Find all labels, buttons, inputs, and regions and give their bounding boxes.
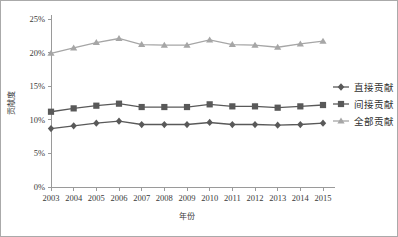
data-point-marker [229, 121, 235, 128]
x-tick-label: 2009 [179, 193, 196, 203]
y-axis-title: 贡献度 [6, 91, 16, 115]
series-1 [48, 118, 326, 133]
x-tick-label: 2014 [292, 193, 310, 203]
data-point-marker [229, 103, 235, 109]
data-point-marker [320, 102, 326, 108]
data-point-marker [274, 122, 280, 129]
data-point-marker [297, 103, 303, 109]
data-point-marker [116, 101, 122, 107]
data-point-marker [207, 101, 213, 107]
legend-item-2[interactable]: 间接贡献 [333, 99, 394, 110]
data-point-marker [252, 103, 258, 109]
x-tick-label: 2015 [315, 193, 332, 203]
legend-square-marker-icon [338, 101, 344, 107]
x-tick-label: 2012 [247, 193, 264, 203]
legend-item-1[interactable]: 直接贡献 [333, 82, 394, 93]
data-point-marker [252, 121, 258, 128]
data-point-marker [184, 121, 190, 128]
data-point-marker [48, 109, 54, 115]
y-tick-label: 15% [29, 81, 45, 91]
data-point-marker [206, 36, 213, 42]
y-tick-label: 25% [29, 14, 45, 24]
x-tick-label: 2006 [111, 193, 128, 203]
x-tick-label: 2003 [43, 193, 60, 203]
y-axis-title-text: 贡献度 [6, 91, 16, 115]
data-point-marker [93, 103, 99, 109]
x-tick-label: 2007 [133, 193, 150, 203]
x-tick-label: 2010 [201, 193, 218, 203]
x-tick-label: 2004 [65, 193, 83, 203]
data-point-marker [71, 105, 77, 111]
y-tick-label: 10% [29, 115, 45, 125]
y-tick-label: 5% [34, 148, 45, 158]
legend-label: 间接贡献 [354, 99, 394, 110]
x-tick-label: 2013 [269, 193, 286, 203]
x-tick-label: 2011 [224, 193, 241, 203]
data-point-marker [206, 119, 212, 126]
chart-figure: 0%5%10%15%20%25%200320042005200620072008… [0, 0, 398, 237]
legend-label: 全部贡献 [354, 116, 394, 127]
x-tick-label: 2008 [156, 193, 173, 203]
legend-diamond-marker-icon [338, 83, 345, 91]
data-point-marker [319, 38, 326, 44]
line-chart-plot: 0%5%10%15%20%25%200320042005200620072008… [1, 1, 398, 237]
data-point-marker [184, 104, 190, 110]
series-3 [47, 35, 326, 56]
legend-label: 直接贡献 [354, 82, 394, 93]
x-axis-title: 年份 [179, 211, 195, 221]
y-tick-label: 0% [34, 182, 45, 192]
data-point-marker [297, 121, 303, 128]
data-point-marker [161, 104, 167, 110]
data-point-marker [115, 35, 122, 41]
data-point-marker [48, 125, 54, 132]
data-point-marker [320, 120, 326, 127]
x-tick-label: 2005 [88, 193, 105, 203]
data-point-marker [70, 122, 76, 129]
data-point-marker [93, 120, 99, 127]
legend-item-3[interactable]: 全部贡献 [333, 116, 394, 127]
data-point-marker [138, 121, 144, 128]
data-point-marker [275, 105, 281, 111]
series-2 [48, 101, 326, 115]
data-point-marker [161, 121, 167, 128]
data-point-marker [139, 104, 145, 110]
y-tick-label: 20% [29, 48, 45, 58]
data-point-marker [116, 118, 122, 125]
